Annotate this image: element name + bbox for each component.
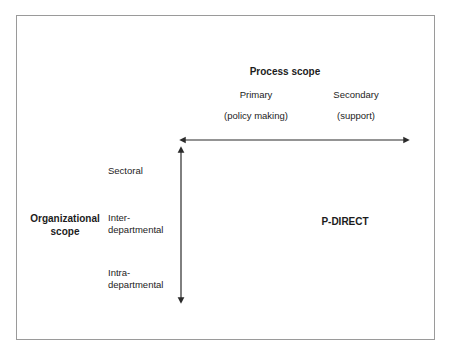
- process-scope-category-primary-sublabel: (policy making): [224, 110, 288, 122]
- process-scope-category-secondary: Secondary: [333, 89, 378, 101]
- intra-departmental-line1: Intra-: [108, 267, 130, 278]
- diagram-root: Process scope Primary (policy making) Se…: [0, 0, 454, 358]
- plotted-item-p-direct: P-DIRECT: [321, 216, 368, 228]
- process-scope-category-secondary-sublabel: (support): [337, 110, 375, 122]
- intra-departmental-line2: departmental: [108, 279, 163, 290]
- inter-departmental-line2: departmental: [108, 224, 163, 235]
- organizational-scope-title-line2: scope: [51, 226, 80, 237]
- organizational-scope-level-intra-departmental: Intra-departmental: [108, 267, 178, 291]
- process-scope-title: Process scope: [250, 66, 321, 78]
- organizational-scope-level-sectoral: Sectoral: [108, 165, 143, 177]
- diagram-frame: [16, 15, 435, 340]
- inter-departmental-line1: Inter-: [108, 212, 130, 223]
- organizational-scope-title: Organizationalscope: [17, 212, 113, 238]
- process-scope-category-primary: Primary: [240, 89, 273, 101]
- organizational-scope-level-inter-departmental: Inter-departmental: [108, 212, 178, 236]
- organizational-scope-title-line1: Organizational: [30, 213, 99, 224]
